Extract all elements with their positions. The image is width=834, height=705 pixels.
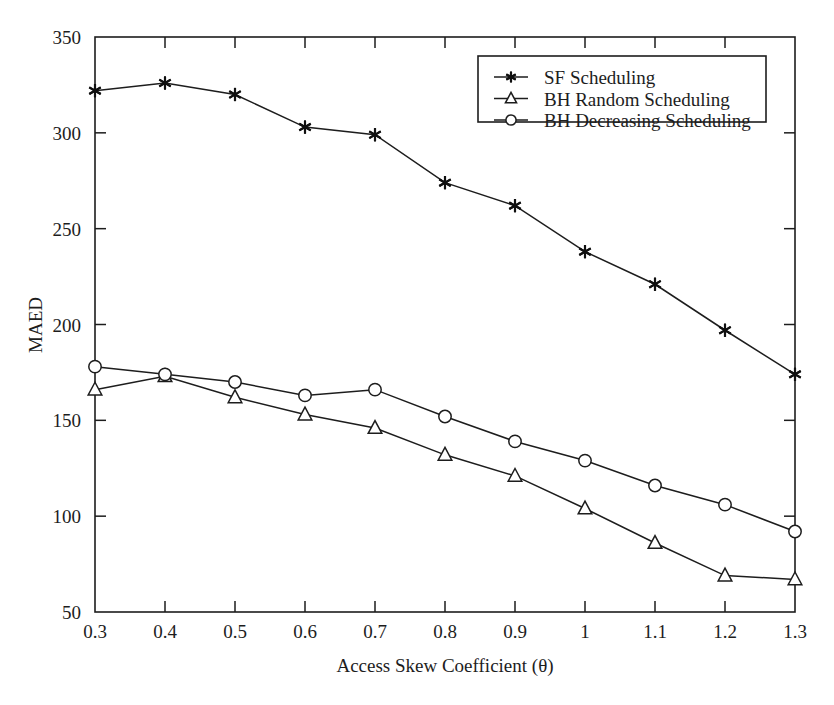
circle-marker-icon [299, 389, 311, 401]
circle-marker-icon [89, 360, 101, 372]
circle-marker-icon [506, 115, 516, 125]
x-tick-label: 0.3 [83, 621, 107, 642]
y-tick-label: 100 [53, 506, 82, 527]
legend-item-label: BH Decreasing Scheduling [544, 110, 751, 131]
y-tick-label: 350 [53, 27, 82, 48]
legend-item-label: SF Scheduling [544, 67, 656, 88]
circle-marker-icon [229, 376, 241, 388]
y-tick-label: 50 [62, 602, 81, 623]
y-tick-label: 300 [53, 123, 82, 144]
chart-figure: 50100150200250300350 0.30.40.50.60.70.80… [0, 0, 834, 705]
y-axis-title: MAED [25, 297, 46, 353]
circle-marker-icon [719, 498, 731, 510]
x-tick-label: 1.2 [713, 621, 737, 642]
circle-marker-icon [509, 435, 521, 447]
x-tick-label: 1.1 [643, 621, 667, 642]
y-tick-label: 200 [53, 315, 82, 336]
x-tick-label: 0.5 [223, 621, 247, 642]
x-axis-title: Access Skew Coefficient (θ) [336, 655, 553, 677]
circle-marker-icon [159, 368, 171, 380]
circle-marker-icon [439, 410, 451, 422]
circle-marker-icon [579, 454, 591, 466]
x-tick-label: 1.3 [783, 621, 807, 642]
legend-item-label: BH Random Scheduling [544, 89, 730, 110]
circle-marker-icon [369, 383, 381, 395]
y-tick-label: 250 [53, 219, 82, 240]
circle-marker-icon [649, 479, 661, 491]
x-tick-label: 0.4 [153, 621, 177, 642]
y-tick-label: 150 [53, 410, 82, 431]
x-tick-label: 0.8 [433, 621, 457, 642]
x-tick-label: 0.7 [363, 621, 387, 642]
chart-legend: SF SchedulingBH Random SchedulingBH Decr… [478, 56, 766, 131]
circle-marker-icon [789, 525, 801, 537]
line-chart: 50100150200250300350 0.30.40.50.60.70.80… [0, 0, 834, 705]
x-tick-label: 0.6 [293, 621, 317, 642]
x-tick-label: 1 [580, 621, 590, 642]
x-tick-label: 0.9 [503, 621, 527, 642]
